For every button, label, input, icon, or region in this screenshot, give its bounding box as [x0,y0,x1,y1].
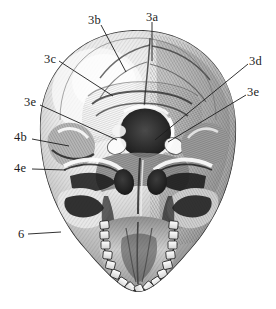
label-4e: 4e [14,162,26,175]
label-3b: 3b [88,14,101,27]
label-3c: 3c [44,53,56,66]
label-3a: 3a [146,11,158,24]
label-6: 6 [18,228,24,241]
label-3e-left: 3e [24,96,36,109]
leader-line-6 [28,232,61,234]
skull-illustration [0,0,276,309]
tubercle-left [112,125,126,137]
skull-drawing [40,30,236,295]
label-3d: 3d [249,55,262,68]
anatomical-figure: 3a3b3c3d3e3e4b4e6 [0,0,276,309]
label-3e-right: 3e [247,86,259,99]
cranium-group [40,30,236,295]
label-4b: 4b [14,131,27,144]
